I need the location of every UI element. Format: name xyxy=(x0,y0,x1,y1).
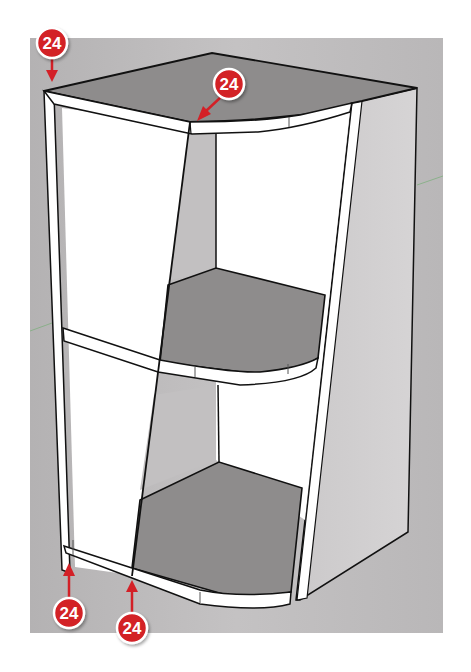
back-corner-line-lower xyxy=(218,385,219,462)
badge-label: 24 xyxy=(220,75,239,94)
badge-label: 24 xyxy=(60,604,79,623)
badge-label: 24 xyxy=(123,619,142,638)
badge-label: 24 xyxy=(43,34,62,53)
cabinet-illustration: 24 24 24 24 xyxy=(0,0,471,672)
